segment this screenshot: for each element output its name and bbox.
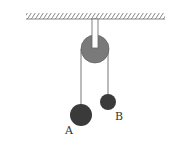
mass-a — [70, 104, 92, 126]
label-b: B — [115, 110, 123, 123]
label-a: A — [64, 124, 74, 137]
mass-b — [100, 94, 116, 110]
ceiling — [26, 13, 165, 19]
pulley-bracket — [92, 19, 98, 48]
pulley-diagram: A B — [0, 0, 175, 145]
